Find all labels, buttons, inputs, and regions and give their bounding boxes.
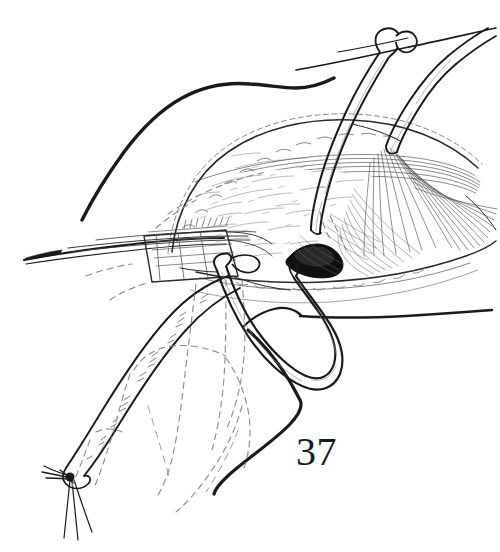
figure-number: 37 [296,432,337,472]
figure-root: 37 [0,0,500,552]
surgical-illustration [0,0,500,552]
